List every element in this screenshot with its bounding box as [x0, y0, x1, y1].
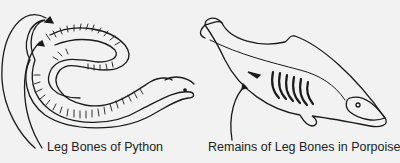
python-leg-bones-label: Leg Bones of Python: [47, 140, 163, 154]
python-illustration: [2, 15, 194, 148]
porpoise-leg-bones-label: Remains of Leg Bones in Porpoise: [208, 140, 400, 154]
diagram-canvas: [0, 0, 400, 163]
porpoise-illustration: [200, 18, 386, 140]
